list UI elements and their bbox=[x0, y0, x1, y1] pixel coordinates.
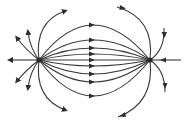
right-charge bbox=[147, 57, 152, 62]
field-line-incoming bbox=[117, 7, 151, 60]
arrow-icon bbox=[162, 32, 168, 38]
left-charge bbox=[36, 57, 41, 62]
arrow-right-icon bbox=[89, 38, 95, 43]
arrow-right-icon bbox=[89, 46, 95, 51]
arrow-icon bbox=[120, 5, 127, 10]
field-line-outgoing bbox=[17, 38, 39, 60]
field-line-outgoing bbox=[38, 60, 65, 110]
arrow-icon bbox=[119, 112, 126, 117]
field-line-incoming bbox=[150, 60, 165, 92]
arrow-right-icon bbox=[89, 64, 95, 69]
field-line bbox=[39, 60, 150, 96]
arrow-right-icon bbox=[89, 52, 95, 57]
field-line bbox=[39, 60, 150, 66]
arrow-right-icon bbox=[89, 94, 95, 99]
arrow-right-icon bbox=[89, 23, 95, 28]
connecting-field-lines bbox=[39, 25, 150, 96]
field-line-incoming bbox=[118, 60, 151, 117]
field-line bbox=[39, 54, 150, 60]
field-line-diagram bbox=[0, 0, 195, 124]
arrow-left-icon bbox=[160, 58, 166, 63]
field-line-outgoing bbox=[17, 60, 39, 81]
arrow-icon bbox=[163, 83, 168, 89]
arrow-right-icon bbox=[89, 80, 95, 85]
arrow-right-icon bbox=[89, 58, 95, 63]
field-line bbox=[39, 25, 150, 60]
arrow-right-icon bbox=[89, 72, 95, 77]
